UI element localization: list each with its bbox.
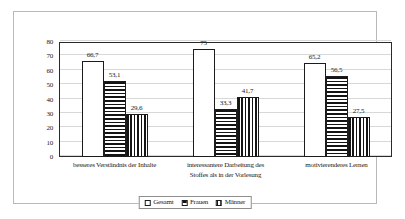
y-axis-tick-label: 30	[46, 110, 53, 117]
x-axis-label-line: besseres Verständnis der Inhalte	[59, 161, 170, 171]
bar-frauen[interactable]	[326, 76, 348, 157]
bar-gesamt[interactable]	[193, 49, 215, 157]
x-axis-category-labels: besseres Verständnis der Inhalteinteress…	[59, 161, 392, 187]
bar-value-label: 41,7	[242, 88, 253, 95]
bar-männer[interactable]	[348, 117, 370, 157]
x-axis-category-label: besseres Verständnis der Inhalte	[59, 161, 170, 171]
bar-männer[interactable]	[126, 114, 148, 157]
legend-swatch-icon	[181, 200, 187, 206]
y-axis-tick-label: 40	[46, 96, 53, 103]
y-axis-tick-label: 70	[46, 53, 53, 60]
bar-group: 7533,341,7	[170, 42, 281, 157]
y-axis-tick-label: 60	[46, 67, 53, 74]
bar-frauen[interactable]	[104, 81, 126, 157]
y-axis: 01020304050607080	[27, 42, 57, 157]
bar-value-label: 27,5	[353, 108, 364, 115]
chart-frame: 01020304050607080 66,753,129,67533,341,7…	[13, 11, 377, 204]
legend-item-gesamt[interactable]: Gesamt	[145, 199, 174, 206]
bar-value-label: 56,5	[331, 67, 342, 74]
bar-value-label: 53,1	[109, 72, 120, 79]
x-axis-label-line: motivierenderes Lernen	[281, 161, 392, 171]
bar-series-container: 66,753,129,67533,341,765,256,527,5	[59, 42, 392, 157]
y-axis-tick-label: 20	[46, 125, 53, 132]
gridline	[60, 40, 391, 41]
x-axis-label-line: interessantere Darbeitung des	[170, 161, 281, 171]
x-axis-category-label: interessantere Darbeitung desStoffes als…	[170, 161, 281, 180]
bar-group: 65,256,527,5	[281, 42, 392, 157]
x-axis-category-label: motivierenderes Lernen	[281, 161, 392, 171]
y-axis-tick-label: 50	[46, 82, 53, 89]
bar-frauen[interactable]	[215, 109, 237, 157]
legend-item-frauen[interactable]: Frauen	[181, 199, 208, 206]
bar-gesamt[interactable]	[82, 61, 104, 157]
bar-group: 66,753,129,6	[59, 42, 170, 157]
legend-swatch-icon	[145, 200, 151, 206]
bar-value-label: 66,7	[87, 52, 98, 59]
legend-item-label: Männer	[225, 199, 246, 206]
bar-männer[interactable]	[237, 97, 259, 157]
bar-value-label: 33,3	[220, 100, 231, 107]
x-axis-label-line: Stoffes als in der Vorlesung	[170, 171, 281, 181]
legend-item-männer[interactable]: Männer	[216, 199, 245, 206]
y-axis-tick-label: 80	[46, 39, 53, 46]
bar-value-label: 29,6	[131, 105, 142, 112]
legend-item-label: Frauen	[190, 199, 208, 206]
chart-legend: GesamtFrauenMänner	[139, 196, 252, 209]
y-axis-tick-label: 0	[50, 154, 53, 161]
y-axis-tick-label: 10	[46, 139, 53, 146]
bar-value-label: 65,2	[309, 54, 320, 61]
legend-item-label: Gesamt	[153, 199, 173, 206]
bar-value-label: 75	[200, 40, 207, 47]
bar-gesamt[interactable]	[304, 63, 326, 157]
legend-swatch-icon	[216, 200, 222, 206]
